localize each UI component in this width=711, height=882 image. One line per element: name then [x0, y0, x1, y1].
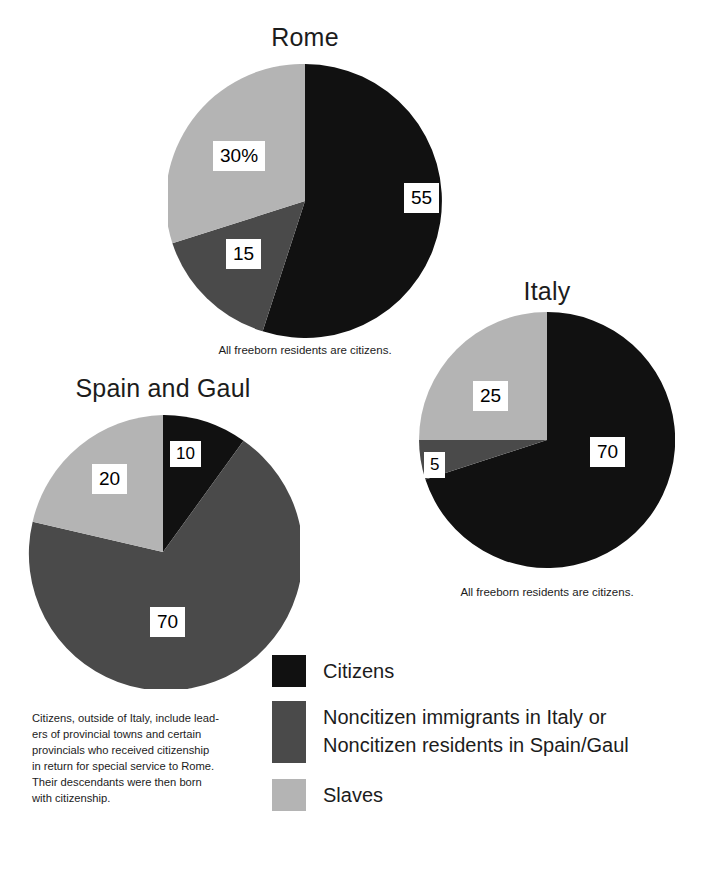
legend-label-citizens: Citizens [323, 655, 394, 685]
legend-label-noncitizens-line2: Noncitizen residents in Spain/Gaul [323, 731, 629, 759]
legend-label-slaves: Slaves [323, 779, 383, 809]
legend-label-noncitizens: Noncitizen immigrants in Italy or Noncit… [323, 701, 629, 760]
rome-title: Rome [205, 23, 405, 52]
footnote-line-5: Their descendants were then born [32, 775, 250, 791]
pie-chart-page: Rome 55 15 30% All freeborn residents ar… [0, 0, 711, 882]
rome-label-noncitizens: 15 [226, 239, 261, 269]
italy-label-noncitizens: 5 [424, 452, 445, 478]
chart-spain-gaul [26, 415, 300, 689]
legend: Citizens Noncitizen immigrants in Italy … [272, 655, 702, 825]
legend-swatch-citizens [272, 655, 306, 687]
footnote-line-1: Citizens, outside of Italy, include lead… [32, 711, 250, 727]
rome-label-slaves: 30% [213, 141, 265, 171]
footnote-line-6: with citizenship. [32, 791, 250, 807]
spain-gaul-label-slaves: 20 [92, 464, 127, 494]
legend-swatch-noncitizens [272, 701, 306, 763]
italy-label-slaves: 25 [473, 381, 508, 411]
legend-item-citizens[interactable]: Citizens [272, 655, 702, 687]
spain-gaul-title: Spain and Gaul [38, 374, 288, 403]
spain-gaul-label-citizens: 10 [170, 441, 201, 467]
italy-pie-svg [419, 312, 675, 568]
chart-rome [168, 64, 442, 338]
legend-item-slaves[interactable]: Slaves [272, 779, 702, 811]
italy-slice-slaves[interactable] [419, 312, 547, 440]
legend-swatch-slaves [272, 779, 306, 811]
rome-pie-svg [168, 64, 442, 338]
italy-title: Italy [467, 277, 627, 306]
footnote-line-2: ers of provincial towns and certain [32, 727, 250, 743]
spain-gaul-pie-svg [26, 415, 300, 689]
chart-italy [419, 312, 675, 568]
legend-label-noncitizens-line1: Noncitizen immigrants in Italy or [323, 703, 629, 731]
footnote-line-4: in return for special service to Rome. [32, 759, 250, 775]
footnote-line-3: provincials who received citizenship [32, 743, 250, 759]
rome-caption: All freeborn residents are citizens. [155, 344, 455, 356]
footnote-citizens-note: Citizens, outside of Italy, include lead… [32, 711, 250, 806]
legend-item-noncitizens[interactable]: Noncitizen immigrants in Italy or Noncit… [272, 701, 702, 763]
italy-caption: All freeborn residents are citizens. [397, 586, 697, 598]
spain-gaul-label-noncitizens: 70 [150, 607, 185, 637]
rome-label-citizens: 55 [404, 183, 439, 213]
italy-label-citizens: 70 [590, 437, 625, 467]
